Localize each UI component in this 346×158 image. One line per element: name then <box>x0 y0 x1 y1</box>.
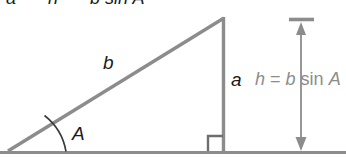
geometry-figure: a h b sin A b a A h = b sin A <box>0 0 346 158</box>
equation-height: h = b sin A <box>255 70 341 88</box>
right-angle-marker <box>208 136 223 151</box>
label-angle-A: A <box>72 124 85 143</box>
label-vertical-leg-a: a <box>231 70 242 89</box>
equation-rhs-b: b <box>286 69 296 89</box>
equation-equals: = <box>270 69 281 89</box>
equation-rhs-A: A <box>329 69 341 89</box>
height-arrow-head-down <box>296 137 307 151</box>
equation-lhs: h <box>255 69 265 89</box>
height-arrow-head-up <box>296 22 306 35</box>
equation-rhs-sin: sin <box>301 69 324 89</box>
label-hypotenuse-b: b <box>103 53 114 72</box>
hypotenuse-line <box>8 18 224 151</box>
